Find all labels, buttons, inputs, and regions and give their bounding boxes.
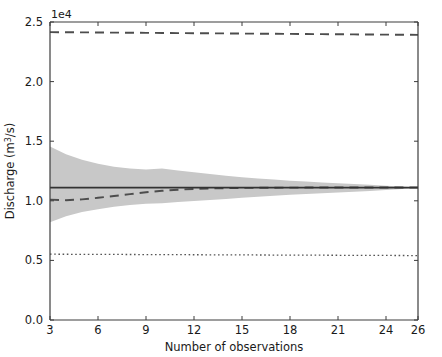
x-tick-label: 12 <box>187 323 202 337</box>
y-tick-label: 0.0 <box>25 313 43 327</box>
y-tick-label: 1.0 <box>25 194 43 208</box>
x-tick-label: 21 <box>331 323 346 337</box>
y-axis-offset-label: 1e4 <box>51 8 72 21</box>
chart-canvas: 369121518212426 0.00.51.01.52.02.5 1e4 N… <box>0 0 442 357</box>
x-tick-label: 6 <box>94 323 101 337</box>
y-tick-label: 2.5 <box>25 15 43 29</box>
y-tick-label: 2.0 <box>25 75 43 89</box>
chart-figure: 369121518212426 0.00.51.01.52.02.5 1e4 N… <box>0 0 442 357</box>
x-axis-label: Number of observations <box>165 340 304 354</box>
x-tick-label: 3 <box>46 323 53 337</box>
x-tick-label: 9 <box>142 323 149 337</box>
x-tick-label: 26 <box>411 323 426 337</box>
x-tick-label: 24 <box>379 323 394 337</box>
y-axis-label: Discharge (m3/s) <box>3 123 17 219</box>
x-tick-label: 18 <box>283 323 298 337</box>
y-tick-label: 1.5 <box>25 134 43 148</box>
y-tick-label: 0.5 <box>25 253 43 267</box>
x-tick-label: 15 <box>235 323 250 337</box>
